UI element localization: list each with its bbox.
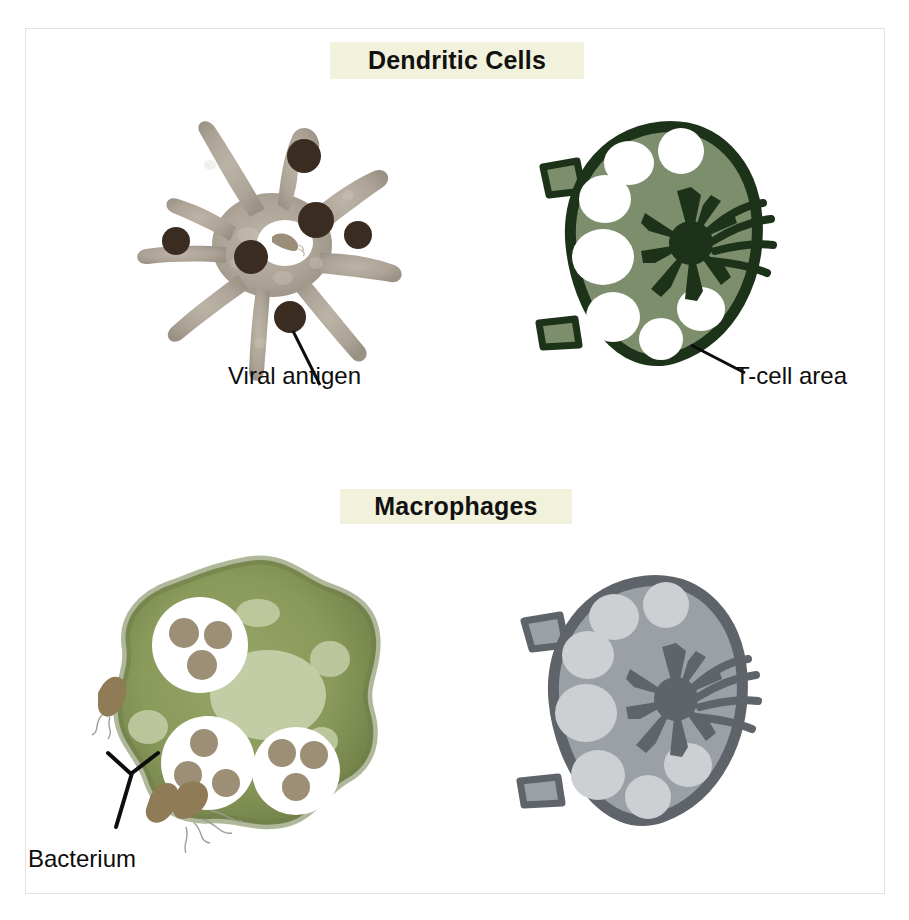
callout-label-viral-antigen: Viral antigen — [228, 362, 361, 390]
phagosome — [152, 597, 248, 693]
section-banner-macrophages: Macrophages — [340, 489, 572, 524]
phagosome — [252, 727, 340, 815]
figure-root: Dendritic Cells Macrophages — [0, 0, 909, 920]
section-banner-label: Dendritic Cells — [368, 46, 546, 75]
dendritic-cell-body — [137, 121, 401, 381]
callout-label-bacterium: Bacterium — [28, 845, 136, 873]
callout-label-t-cell-area: T-cell area — [735, 362, 847, 390]
macrophage-illustration — [90, 535, 410, 865]
lymph-node-green-illustration — [495, 95, 815, 395]
dendritic-cell-illustration — [120, 95, 420, 395]
section-banner-dendritic-cells: Dendritic Cells — [330, 42, 584, 79]
lymph-node-gray-illustration — [480, 545, 800, 865]
section-banner-label: Macrophages — [374, 492, 537, 521]
